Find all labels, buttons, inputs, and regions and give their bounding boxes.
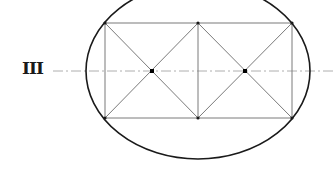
ellipse-construction-diagram — [0, 0, 334, 178]
construction-grid — [105, 23, 292, 118]
